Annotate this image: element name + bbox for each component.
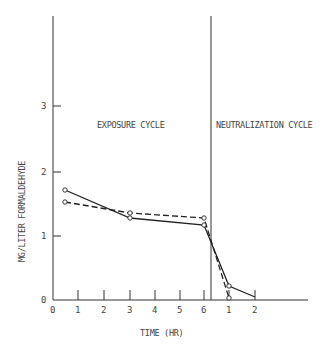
- x-tick-label: 5: [177, 305, 182, 315]
- x-tick-label: 2: [252, 305, 257, 315]
- x-tick-label: 6: [201, 305, 206, 315]
- y-tick-label-3: 3: [41, 101, 46, 111]
- x-tick-label: 4: [152, 305, 157, 315]
- x-tick-label: 1: [75, 305, 80, 315]
- y-ticks: [53, 106, 61, 236]
- x-axis-title: TIME (HR): [140, 328, 183, 338]
- y-axis-title: MG/LITER FORMALDEHYDE: [17, 161, 27, 262]
- y-tick-label-0: 0: [41, 295, 46, 305]
- x-tick-label: 2: [101, 305, 106, 315]
- exposure-cycle-label: EXPOSURE CYCLE: [97, 120, 165, 130]
- x-tick-label: 0: [50, 305, 55, 315]
- x-tick-label: 3: [127, 305, 132, 315]
- series-solid-line: [65, 190, 255, 297]
- y-tick-label-1: 1: [41, 231, 46, 241]
- y-tick-label-2: 2: [41, 167, 46, 177]
- x-tick-label: 1: [226, 305, 231, 315]
- formaldehyde-chart: 0 1 2 3 0 1 2 3 4 5 6 1 2 TIME (HR) MG/L…: [0, 0, 326, 349]
- data-point-markers: [63, 188, 231, 300]
- neutralization-cycle-label: NEUTRALIZATION CYCLE: [216, 120, 313, 130]
